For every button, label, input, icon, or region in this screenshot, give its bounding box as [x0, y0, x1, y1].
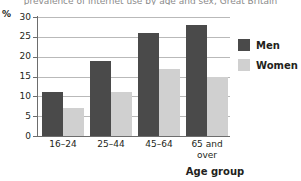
y-label-0: 0	[8, 132, 31, 141]
y-label-10: 10	[8, 92, 31, 101]
legend-item-women: Women	[238, 57, 298, 73]
legend-label-women: Women	[256, 60, 298, 71]
bar-men-25-44	[90, 61, 111, 136]
bar-men-45-64	[138, 33, 159, 136]
x-label-65-and-over-line2: over	[197, 150, 217, 160]
chart-title-text: prevalence of internet use by age and se…	[0, 0, 301, 5]
x-label-16-24: 16–24	[49, 139, 76, 149]
chart-legend: Men Women	[238, 37, 298, 77]
bar-men-65-and-over	[186, 25, 207, 136]
y-label-5: 5	[8, 112, 31, 121]
y-label-30: 30	[8, 13, 31, 22]
x-label-25-44: 25–44	[97, 139, 124, 149]
chart-title-cropped: prevalence of internet use by age and se…	[0, 0, 301, 5]
y-label-20: 20	[8, 52, 31, 61]
bar-women-16-24	[63, 108, 84, 136]
y-label-25: 25	[8, 32, 31, 41]
y-tick-0	[33, 136, 38, 137]
x-label-65-and-over-line1: 65 and	[191, 139, 222, 149]
bar-men-16-24	[42, 92, 63, 136]
legend-item-men: Men	[238, 37, 298, 53]
men-swatch-icon	[238, 39, 250, 51]
x-axis-title: Age group	[160, 166, 270, 177]
bar-chart: prevalence of internet use by age and se…	[0, 0, 301, 181]
x-label-45-64: 45–64	[145, 139, 172, 149]
bar-women-65-and-over	[207, 77, 228, 137]
bar-women-25-44	[111, 92, 132, 136]
bar-series-container	[38, 17, 230, 136]
bar-women-45-64	[159, 69, 180, 136]
women-swatch-icon	[238, 59, 250, 71]
y-label-15: 15	[8, 72, 31, 81]
legend-label-men: Men	[256, 40, 280, 51]
x-axis-labels: 16–24 25–44 45–64 65 and over	[38, 139, 230, 165]
x-axis-line	[37, 136, 230, 137]
